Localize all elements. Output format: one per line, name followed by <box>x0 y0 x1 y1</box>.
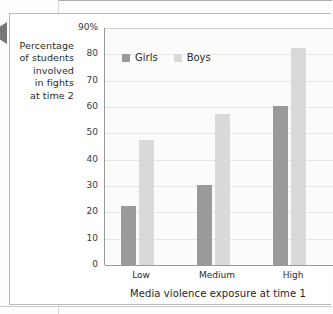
y-tick-label-60: 60 <box>64 101 98 111</box>
y-tick-label-80: 80 <box>64 48 98 58</box>
legend-item-boys: Boys <box>174 52 211 63</box>
legend-label-boys: Boys <box>187 52 211 63</box>
gridline-90 <box>105 28 333 29</box>
plot-area <box>104 28 333 265</box>
y-axis-tick-labels: 90%80706050403020100 <box>64 28 100 265</box>
page-bottom-rule <box>0 306 332 307</box>
y-tick-label-40: 40 <box>64 154 98 164</box>
y-tick-label-10: 10 <box>64 233 98 243</box>
y-tick-label-50: 50 <box>64 127 98 137</box>
gridline-0 <box>105 265 333 266</box>
bar-girls-medium <box>197 185 212 265</box>
y-tick-label-90: 90% <box>64 22 98 32</box>
bar-boys-high <box>291 48 306 265</box>
x-axis-title: Media violence exposure at time 1 <box>104 288 332 299</box>
bar-girls-low <box>121 206 136 265</box>
girls-swatch-icon <box>122 54 130 62</box>
bar-boys-low <box>139 140 154 265</box>
legend-label-girls: Girls <box>135 52 158 63</box>
chart-legend: Girls Boys <box>122 52 211 63</box>
y-tick-label-30: 30 <box>64 180 98 190</box>
boys-swatch-icon <box>174 54 182 62</box>
x-tick-label-high: High <box>263 270 323 280</box>
legend-item-girls: Girls <box>122 52 158 63</box>
y-tick-label-0: 0 <box>64 259 98 269</box>
x-tick-label-medium: Medium <box>187 270 247 280</box>
y-tick-label-70: 70 <box>64 75 98 85</box>
bar-girls-high <box>273 106 288 265</box>
page-top-rule <box>58 0 332 1</box>
bar-boys-medium <box>215 114 230 265</box>
y-tick-label-20: 20 <box>64 206 98 216</box>
x-tick-label-low: Low <box>111 270 171 280</box>
